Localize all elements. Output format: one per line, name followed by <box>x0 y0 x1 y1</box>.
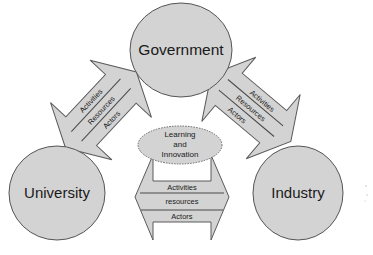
node-university: University <box>9 146 105 240</box>
university-label: University <box>24 184 90 201</box>
center-label-line3: Innovation <box>162 150 199 159</box>
triple-helix-diagram: Activities Resources Actors Activities R… <box>0 0 373 255</box>
arrow-university-industry: Activities resources Actors <box>135 155 229 240</box>
band-label-resources: resources <box>166 197 199 206</box>
band-label-activities: Activities <box>167 183 197 192</box>
industry-label: Industry <box>271 184 325 201</box>
center-label-line2: and <box>173 140 186 149</box>
node-government: Government <box>130 3 232 97</box>
government-label: Government <box>138 41 224 58</box>
node-learning-innovation: Learning and Innovation <box>138 126 222 164</box>
band-label-actors: Actors <box>171 212 193 221</box>
node-industry: Industry <box>253 146 343 240</box>
scan-artifact <box>364 185 368 202</box>
center-label-line1: Learning <box>164 130 195 139</box>
